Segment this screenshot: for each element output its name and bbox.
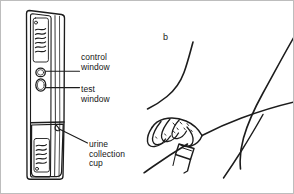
- thumb: [187, 127, 194, 146]
- hand-back-outline: [152, 118, 202, 136]
- label-control-window: control window: [81, 53, 110, 72]
- label-test-window: test window: [81, 85, 110, 104]
- held-device-tip-2: [173, 155, 176, 166]
- forearm-lower-contour: [144, 144, 188, 173]
- panel-letter-b: b: [163, 32, 168, 42]
- held-device-tip: [184, 160, 191, 174]
- hand-and-body-illustration: [1, 1, 294, 194]
- torso-contour-left: [148, 42, 194, 109]
- label-urine-collection-cup: urine collection cup: [89, 140, 125, 169]
- torso-contour-right: [240, 37, 294, 169]
- figure-panel-b: control window test window urine collect…: [0, 0, 294, 194]
- inner-leg-contour: [224, 115, 264, 179]
- forearm-upper-contour: [202, 102, 294, 136]
